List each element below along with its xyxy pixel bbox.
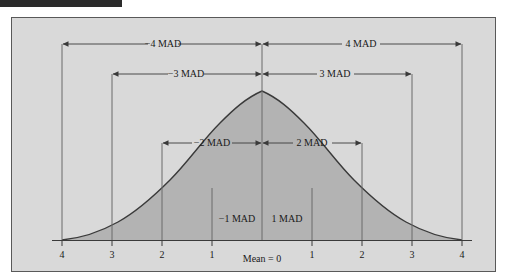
mean-axis-label: Mean = 0 [243,254,281,264]
tick-label-pos1: 1 [310,250,315,260]
tick-label-neg2: 2 [160,250,165,260]
distribution-plot [12,18,495,271]
span-label-neg4: −4 MAD [145,39,181,49]
tick-label-neg1: 1 [210,250,215,260]
tick-label-neg3: 3 [110,250,115,260]
span-label-neg2: −2 MAD [194,138,230,148]
span-label-pos2: 2 MAD [297,138,328,148]
span-label-pos4: 4 MAD [346,39,377,49]
span-label-neg1: −1 MAD [219,214,255,224]
tick-label-pos2: 2 [360,250,365,260]
figure-root: −4 MAD 4 MAD −3 MAD 3 MAD −2 MAD 2 MAD −… [0,0,510,280]
redacted-caption-bar [0,0,122,7]
span-label-pos3: 3 MAD [320,69,351,79]
span-label-pos1: 1 MAD [272,214,303,224]
figure-frame: −4 MAD 4 MAD −3 MAD 3 MAD −2 MAD 2 MAD −… [11,17,496,272]
tick-label-neg4: 4 [60,250,65,260]
tick-label-pos4: 4 [460,250,465,260]
span-label-neg3: −3 MAD [168,69,204,79]
tick-label-pos3: 3 [410,250,415,260]
